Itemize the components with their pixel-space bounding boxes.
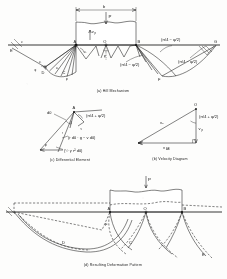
c-dtheta-leader xyxy=(54,114,66,120)
c-label-phi: φ xyxy=(45,144,47,147)
c-label-r: r xyxy=(62,131,63,135)
angle-callout-3: (π/4 − φ/2) xyxy=(178,46,206,64)
angle-note-v-left: v₀ xyxy=(84,51,86,54)
dimension-label-b: b xyxy=(103,4,106,9)
velocity-label-vp: v xyxy=(92,29,94,34)
point-label-g: G xyxy=(214,39,217,44)
b-hypotenuse xyxy=(138,109,196,143)
b-label-vp-sub: p xyxy=(201,129,203,132)
c-expr-mid: (r dθ · g − v dθ) xyxy=(68,135,96,140)
b-angle-arc xyxy=(191,121,197,123)
log-spiral-left xyxy=(46,67,77,77)
panel-b-velocity-diagram: O (π/4 + φ/2) v₀ v p v AB (b) Velocity D… xyxy=(138,102,219,161)
d-point-label-f: F xyxy=(105,222,108,227)
d-point-label-e: E xyxy=(202,252,205,257)
label-phi-center: φ xyxy=(104,55,106,58)
label-v3: v₃ xyxy=(56,67,58,70)
angle-label-1: (π/4 − φ/2) xyxy=(120,62,140,67)
point-label-b: B xyxy=(137,39,140,44)
d-spiral-left-outer xyxy=(14,212,132,252)
c-bottom-leader xyxy=(56,147,63,150)
c-top-edge xyxy=(74,110,102,112)
point-label-d: D xyxy=(42,70,45,75)
label-phi-c: φ xyxy=(66,78,68,81)
panel-c-differential-element: A dθ (π/4 + φ/2) θ v r (r dθ · g − v dθ)… xyxy=(40,105,106,162)
caption-panel-c: (c) Differential Element xyxy=(50,158,90,162)
c-inner-line-2 xyxy=(74,112,84,122)
d-dashed-b xyxy=(182,212,212,258)
caption-panel-b: (b) Velocity Diagram xyxy=(152,157,187,161)
label-v2: v₂ xyxy=(39,61,41,64)
point-label-o: O xyxy=(103,39,106,44)
label-phi-left: φ xyxy=(35,69,37,72)
d-dashed-o-left xyxy=(120,212,146,250)
b-label-vab: v xyxy=(163,145,165,150)
c-label-dtheta: dθ xyxy=(47,110,52,115)
d-point-label-o: O xyxy=(143,206,146,211)
c-angle-right-label: (π/4 + φ/2) xyxy=(86,113,106,118)
figure-root: b P v p v₁ E xyxy=(0,0,227,279)
point-label-f: F xyxy=(158,77,161,82)
point-label-c: C xyxy=(63,70,66,75)
left-slip-surface: D v₂ φ xyxy=(12,45,76,75)
radial-fan-right: F xyxy=(136,45,216,82)
load-label-p: P xyxy=(109,14,112,19)
c-right-edge xyxy=(58,112,74,152)
wedge-angles-left: v₀ xyxy=(76,45,99,59)
angle-callout-2: (π/4 − φ/2) xyxy=(160,37,181,52)
d-point-label-a: A xyxy=(107,206,110,211)
caption-panel-d: (d) Resulting Deformation Pattern xyxy=(84,263,142,267)
b-label-vp: v xyxy=(199,126,201,131)
d-slip-b-down xyxy=(182,212,206,256)
d-load-label: P xyxy=(148,177,151,182)
b-vertex-label-o: O xyxy=(194,102,197,107)
angle-callout-1: (π/4 − φ/2) xyxy=(120,55,143,67)
b-label-vab-sub: AB xyxy=(166,147,170,151)
radial-fan-left: C v₃ φ xyxy=(46,45,77,81)
c-expr-bottom: (½ γ r² dθ) xyxy=(64,148,83,153)
b-angle-label: (π/4 + φ/2) xyxy=(199,114,219,119)
panel-d-deformation-pattern: P A O B xyxy=(6,176,222,267)
panel-a-hill-mechanism: b P v p v₁ E xyxy=(8,4,220,93)
d-slip-o-down xyxy=(146,212,172,254)
c-apex-label: A xyxy=(73,105,76,110)
d-point-label-d: D xyxy=(62,240,65,245)
figure-svg: b P v p v₁ E xyxy=(0,0,227,279)
caption-panel-a: (a) Hill Mechanism xyxy=(97,89,129,93)
d-ground-hatch-left xyxy=(6,207,15,216)
d-dashed-b-left xyxy=(158,212,182,250)
d-point-label-b: B xyxy=(183,206,186,211)
point-label-a: A xyxy=(73,39,76,44)
label-v1: v₁ xyxy=(21,41,23,44)
b-label-v0: v₀ xyxy=(160,120,164,125)
d-heave-line-right xyxy=(182,205,222,207)
c-inner-line-3 xyxy=(78,122,84,126)
c-label-theta: θ xyxy=(71,121,73,125)
c-label-v: v xyxy=(81,128,83,131)
wedge-angles-center: φ xyxy=(101,45,136,58)
d-load-arrow: P xyxy=(145,176,151,188)
angle-label-2: (π/4 − φ/2) xyxy=(161,37,181,42)
d-point-label-c: C xyxy=(129,240,132,245)
